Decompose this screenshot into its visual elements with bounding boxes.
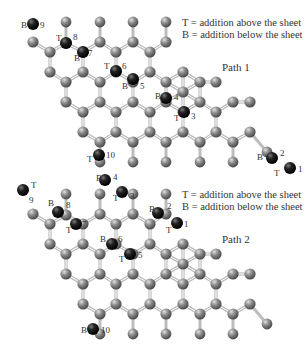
side-label: B <box>21 20 27 30</box>
hydrogen-atom <box>228 157 239 168</box>
carbon-atom <box>110 126 121 137</box>
side-label: T <box>166 225 172 235</box>
carbon-atom <box>94 76 105 87</box>
carbon-atom <box>60 268 71 279</box>
carbon-atom <box>227 268 238 279</box>
step-number-label: 1 <box>184 219 189 229</box>
side-label: T <box>174 113 180 123</box>
carbon-atom <box>60 76 71 87</box>
legend-bottom-definition: B = addition below the sheet <box>182 29 303 41</box>
side-label: T <box>31 180 37 190</box>
step-number-label: 3 <box>130 191 135 201</box>
side-label: B <box>100 234 106 244</box>
carbon-atom <box>210 248 221 259</box>
hydrogen-atom <box>95 17 106 28</box>
step-number-label: 10 <box>101 325 111 335</box>
step-number-label: 5 <box>140 81 145 91</box>
legend-top-definition: T = addition above the sheet <box>182 189 303 201</box>
side-label: B <box>149 204 155 214</box>
carbon-atom <box>94 136 105 147</box>
carbon-atom <box>210 106 221 117</box>
carbon-atom <box>144 106 155 117</box>
step-number-label: 8 <box>66 200 71 210</box>
carbon-atom <box>160 248 171 259</box>
carbon-atom <box>244 126 255 137</box>
carbon-atom <box>77 106 88 117</box>
graphene-hydrogenation-diagram: T1B2T3B4B5T6B7T8B9T10 T1B2T3B4T5B6T7B8T9… <box>0 0 308 354</box>
hydrogen-atom <box>262 319 273 330</box>
carbon-atom <box>77 278 88 289</box>
carbon-atom <box>194 96 205 107</box>
carbon-atom <box>144 218 155 229</box>
carbon-atom <box>44 218 55 229</box>
path-2-title: Path 2 <box>222 233 250 245</box>
carbon-atom <box>244 268 255 279</box>
carbon-atom <box>27 36 38 47</box>
added-atom-step-4 <box>160 92 172 104</box>
carbon-atom <box>160 308 171 319</box>
side-label: T <box>113 193 119 203</box>
hydrogen-atom <box>128 17 139 28</box>
carbon-atom <box>144 278 155 289</box>
carbon-atom <box>194 136 205 147</box>
step-number-label: 10 <box>106 150 116 160</box>
carbon-atom <box>94 96 105 107</box>
carbon-atom <box>144 46 155 57</box>
side-label: B <box>81 325 87 335</box>
carbon-atom <box>94 208 105 219</box>
carbon-atom <box>177 66 188 77</box>
carbon-atom <box>194 268 205 279</box>
step-number-label: 2 <box>167 201 172 211</box>
step-number-label: 6 <box>122 61 127 71</box>
side-label: B <box>74 53 80 63</box>
legend-path-2: T = addition above the sheet B = additio… <box>182 189 303 213</box>
carbon-atom <box>110 46 121 57</box>
side-label: T <box>104 61 110 71</box>
carbon-atom <box>210 76 221 87</box>
carbon-atom <box>144 238 155 249</box>
carbon-atom <box>210 126 221 137</box>
added-atom-step-10 <box>93 149 105 161</box>
step-number-label: 9 <box>40 20 45 30</box>
side-label: T <box>56 33 62 43</box>
hydrogen-atom <box>128 329 139 340</box>
carbon-atom <box>177 298 188 309</box>
step-number-label: 3 <box>191 111 196 121</box>
path-1-title: Path 1 <box>222 61 250 73</box>
hydrogen-atom <box>195 157 206 168</box>
carbon-atom <box>127 36 138 47</box>
hydrogen-atom <box>61 189 72 200</box>
step-number-label: 9 <box>29 195 34 205</box>
hydrogen-atom <box>161 17 172 28</box>
carbon-atom <box>194 248 205 259</box>
side-label: B <box>155 91 161 101</box>
hydrogen-atom <box>161 189 172 200</box>
carbon-atom <box>77 126 88 137</box>
carbon-atom <box>44 66 55 77</box>
side-label: T <box>87 154 93 164</box>
step-number-label: 1 <box>298 164 303 174</box>
carbon-atom <box>127 96 138 107</box>
hydrogen-atom <box>228 329 239 340</box>
added-atom-step-8 <box>60 37 72 49</box>
carbon-atom <box>77 66 88 77</box>
carbon-atom <box>177 278 188 289</box>
carbon-atom <box>210 298 221 309</box>
carbon-atom <box>227 136 238 147</box>
carbon-atom <box>60 96 71 107</box>
added-atom-step-2 <box>266 152 278 164</box>
carbon-atom <box>60 248 71 259</box>
added-atom-step-1 <box>171 217 183 229</box>
legend-path-1: T = addition above the sheet B = additio… <box>182 17 303 41</box>
hydrogen-atom <box>128 157 139 168</box>
carbon-atom <box>210 278 221 289</box>
carbon-atom <box>110 106 121 117</box>
carbon-atom <box>144 298 155 309</box>
carbon-atom <box>177 126 188 137</box>
side-label: B <box>122 81 128 91</box>
carbon-atom <box>194 76 205 87</box>
carbon-atom <box>227 96 238 107</box>
carbon-atom <box>127 136 138 147</box>
side-label: T <box>274 168 280 178</box>
legend-bottom-definition: B = addition below the sheet <box>182 201 303 213</box>
